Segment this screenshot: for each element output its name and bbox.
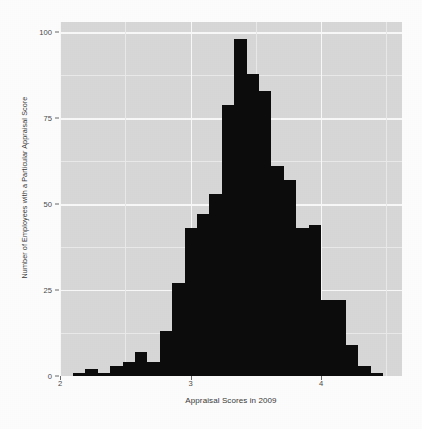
x-tick-mark xyxy=(321,376,322,380)
x-axis-title: Appraisal Scores in 2009 xyxy=(60,396,402,405)
x-tick-label: 2 xyxy=(58,379,62,388)
histogram-figure: Number of Employees with a Particular Ap… xyxy=(0,0,422,429)
x-tick-mark xyxy=(60,376,61,380)
x-axis-tick-labels: 234 xyxy=(0,0,422,429)
x-tick-label: 4 xyxy=(319,379,323,388)
x-tick-label: 3 xyxy=(188,379,192,388)
x-tick-mark xyxy=(191,376,192,380)
